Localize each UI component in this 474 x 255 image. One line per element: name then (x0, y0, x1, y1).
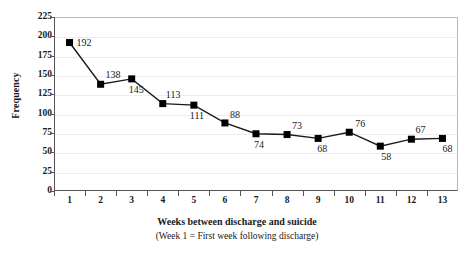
x-tick-label: 13 (427, 196, 457, 206)
gridline (55, 57, 457, 58)
x-tick-label: 11 (365, 196, 395, 206)
y-tick-label: 100 (18, 109, 52, 119)
x-tick-label: 2 (86, 196, 116, 206)
point-value-label: 76 (355, 119, 365, 129)
gridline (55, 37, 457, 38)
x-tick-label: 6 (210, 196, 240, 206)
y-tick-mark (50, 152, 55, 153)
y-tick-mark (50, 75, 55, 76)
x-tick-mark (240, 191, 241, 196)
point-value-label: 68 (442, 144, 452, 154)
x-tick-mark (116, 191, 117, 196)
x-tick-mark (334, 191, 335, 196)
y-tick-label: 225 (18, 12, 52, 22)
gridline (55, 173, 457, 174)
x-tick-mark (178, 191, 179, 196)
x-tick-mark (303, 191, 304, 196)
x-tick-mark (54, 191, 55, 196)
point-value-label: 67 (415, 125, 425, 135)
y-tick-mark (50, 114, 55, 115)
x-tick-mark (396, 191, 397, 196)
x-tick-mark (427, 191, 428, 196)
x-tick-mark (85, 191, 86, 196)
x-axis-subtitle: (Week 1 = First week following discharge… (0, 231, 474, 241)
x-axis-title: Weeks between discharge and suicide (0, 216, 474, 227)
y-tick-mark (50, 56, 55, 57)
point-value-label: 138 (106, 70, 121, 80)
plot-area (54, 17, 458, 191)
gridline (55, 95, 457, 96)
point-value-label: 74 (254, 140, 264, 150)
point-value-label: 111 (190, 111, 204, 121)
point-value-label: 73 (292, 121, 302, 131)
x-tick-mark (365, 191, 366, 196)
y-tick-mark (50, 36, 55, 37)
y-tick-label: 200 (18, 32, 52, 42)
y-tick-mark (50, 17, 55, 18)
y-tick-mark (50, 172, 55, 173)
y-tick-label: 50 (18, 148, 52, 158)
y-tick-label: 125 (18, 90, 52, 100)
frequency-line-chart: Frequency 0255075100125150175200225 1234… (0, 0, 474, 255)
x-tick-label: 3 (117, 196, 147, 206)
x-tick-label: 9 (303, 196, 333, 206)
point-value-label: 88 (230, 110, 240, 120)
point-value-label: 113 (166, 90, 181, 100)
y-tick-label: 150 (18, 70, 52, 80)
x-tick-mark (147, 191, 148, 196)
point-value-label: 58 (381, 152, 391, 162)
point-value-label: 68 (317, 144, 327, 154)
y-tick-label: 25 (18, 167, 52, 177)
x-tick-mark (272, 191, 273, 196)
x-tick-label: 5 (179, 196, 209, 206)
x-tick-mark (209, 191, 210, 196)
y-tick-label: 0 (18, 186, 52, 196)
y-tick-mark (50, 94, 55, 95)
y-tick-label: 175 (18, 51, 52, 61)
point-value-label: 192 (77, 38, 92, 48)
x-tick-label: 7 (241, 196, 271, 206)
gridline (55, 115, 457, 116)
x-tick-label: 1 (55, 196, 85, 206)
x-tick-label: 10 (334, 196, 364, 206)
y-tick-mark (50, 133, 55, 134)
x-tick-label: 8 (272, 196, 302, 206)
point-value-label: 145 (129, 85, 144, 95)
gridline (55, 134, 457, 135)
y-tick-label: 75 (18, 128, 52, 138)
gridline (55, 153, 457, 154)
x-tick-label: 12 (396, 196, 426, 206)
x-tick-label: 4 (148, 196, 178, 206)
